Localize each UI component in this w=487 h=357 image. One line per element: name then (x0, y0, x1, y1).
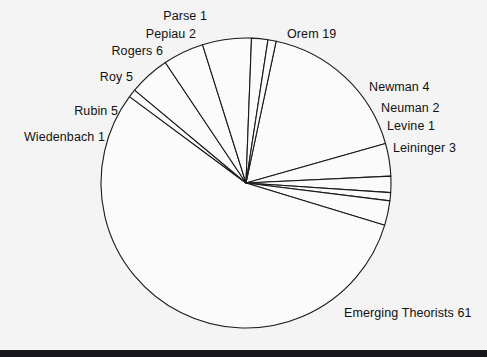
pie-slice-label: Wiedenbach 1 (0, 130, 105, 144)
pie-slice-label: Roy 5 (0, 70, 133, 84)
pie-slice-label: Rubin 5 (0, 104, 118, 118)
pie-slice-label: Pepiau 2 (0, 27, 196, 41)
pie-slice-label: Orem 19 (287, 27, 336, 41)
pie-slices-group: Orem 19Newman 4Neuman 2Levine 1Leininger… (101, 38, 391, 328)
pie-slice-label: Leininger 3 (393, 141, 456, 155)
pie-slice-label: Emerging Theorists 61 (344, 306, 472, 320)
pie-slice-label: Newman 4 (369, 80, 430, 94)
pie-slice-label: Neuman 2 (381, 101, 439, 115)
pie-chart-page: Orem 19Newman 4Neuman 2Levine 1Leininger… (0, 0, 487, 357)
bottom-bar (0, 350, 487, 357)
pie-slice-label: Rogers 6 (0, 44, 163, 58)
pie-slice-label: Levine 1 (387, 119, 435, 133)
pie-slice-label: Parse 1 (0, 9, 207, 23)
